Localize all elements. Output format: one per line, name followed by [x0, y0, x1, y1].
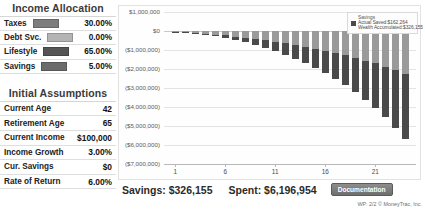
income-allocation-panel: Income Allocation Taxes30.00%Debt Svc.0.… [0, 0, 116, 74]
summary-bar: Savings: $326,155 Spent: $6,196,954 Docu… [118, 181, 421, 198]
chart-x-tick [325, 164, 326, 167]
table-row [262, 12, 269, 164]
table-row [402, 12, 409, 164]
bar-segment-saved [372, 63, 379, 108]
bar-segment-saved [202, 34, 209, 35]
table-row [312, 12, 319, 164]
bar-segment-saved [362, 61, 369, 100]
assumption-row: Rate of Return6.00% [0, 175, 116, 190]
legend-entry-label: Wealth Accumulated:$326,155 [358, 25, 423, 30]
assumption-row: Cur. Savings$0 [0, 160, 116, 175]
legend-entries: Actual Saved:$162,264 Wealth Accumulated… [350, 20, 415, 31]
income-allocation-value: 65.00% [84, 47, 116, 56]
assumption-value: $0 [103, 162, 116, 172]
table-row [282, 12, 289, 164]
income-allocation-row: Lifestyle65.00% [0, 45, 116, 59]
chart-x-tick-label: 21 [372, 168, 379, 175]
income-allocation-value: 5.00% [89, 62, 116, 71]
bar-segment-wealth [322, 31, 329, 51]
bar-segment-wealth [302, 31, 309, 47]
table-row [222, 12, 229, 164]
bar-segment-wealth [252, 31, 259, 39]
table-row [382, 12, 389, 164]
income-allocation-swatch [43, 47, 69, 56]
table-row [392, 12, 399, 164]
assumption-label: Income Growth [0, 148, 64, 157]
income-allocation-value: 0.00% [89, 33, 116, 42]
assumption-label: Retirement Age [0, 119, 64, 128]
bar-segment-wealth [242, 31, 249, 38]
table-row [332, 12, 339, 164]
table-row [352, 12, 359, 164]
income-allocation-row: Taxes30.00% [0, 17, 116, 31]
table-row [292, 12, 299, 164]
chart-y-tick-label: ($1,000,000) [119, 47, 160, 53]
chart-x-tick-label: 6 [223, 168, 227, 175]
bar-segment-saved [392, 70, 399, 128]
income-allocation-swatch [33, 19, 59, 28]
income-allocation-row: Savings5.00% [0, 60, 116, 74]
savings-total: Savings: $326,155 [122, 184, 212, 196]
chart-y-tick-label: ($5,000,000) [119, 123, 160, 129]
bar-segment-saved [272, 42, 279, 51]
bar-segment-saved [262, 40, 269, 48]
income-allocation-swatch [41, 62, 67, 71]
table-row [242, 12, 249, 164]
bar-segment-saved [342, 55, 349, 85]
legend-labels: Actual Saved:$162,264 Wealth Accumulated… [358, 20, 423, 31]
chart-legend: Savings Actual Saved:$162,264 Wealth Acc… [347, 12, 418, 34]
bar-segment-saved [322, 51, 329, 73]
initial-assumptions-title: Initial Assumptions [0, 85, 116, 102]
bar-segment-wealth [362, 31, 369, 61]
bar-segment-wealth [262, 31, 269, 40]
assumption-value: $100,000 [77, 133, 116, 143]
table-row [302, 12, 309, 164]
bar-segment-saved [402, 74, 409, 139]
bar-segment-wealth [292, 31, 299, 45]
table-row [202, 12, 209, 164]
assumption-label: Rate of Return [0, 177, 60, 186]
chart-y-tick-label: ($3,000,000) [119, 85, 160, 91]
table-row [372, 12, 379, 164]
bar-segment-saved [232, 37, 239, 41]
income-allocation-row: Debt Svc.0.00% [0, 31, 116, 45]
table-row [192, 12, 199, 164]
bar-segment-saved [192, 33, 199, 34]
income-allocation-rows: Taxes30.00%Debt Svc.0.00%Lifestyle65.00%… [0, 17, 116, 74]
income-allocation-label: Savings [0, 62, 35, 71]
chart-x-tick [225, 164, 226, 167]
table-row [212, 12, 219, 164]
chart-x-tick-label: 11 [272, 168, 279, 175]
left-panels-column: Income Allocation Taxes30.00%Debt Svc.0.… [0, 0, 116, 213]
bar-segment-wealth [392, 31, 399, 70]
initial-assumptions-rows: Current Age42Retirement Age65Current Inc… [0, 102, 116, 190]
documentation-button[interactable]: Documentation [331, 183, 393, 196]
bar-segment-saved [242, 38, 249, 43]
assumption-label: Current Age [0, 104, 51, 113]
chart-y-tick-label: ($7,000,000) [119, 161, 160, 167]
bar-segment-saved [312, 49, 319, 68]
assumption-value: 65 [103, 118, 116, 128]
assumption-label: Current Income [0, 133, 65, 142]
bar-segment-wealth [402, 31, 409, 74]
table-row [322, 12, 329, 164]
bar-segment-saved [282, 43, 289, 54]
income-allocation-label: Taxes [0, 19, 27, 28]
footer-copyright: WP: 2/2 © MoneyTrac, Inc. [357, 201, 422, 207]
chart-x-tick [375, 164, 376, 167]
bar-segment-wealth [382, 31, 389, 67]
bar-segment-saved [222, 35, 229, 38]
chart-y-tick-label: $0 [119, 28, 160, 34]
bar-segment-saved [252, 39, 259, 45]
chart-x-tick-label: 16 [322, 168, 329, 175]
chart-y-tick-label: ($4,000,000) [119, 104, 160, 110]
income-allocation-value: 30.00% [84, 19, 116, 28]
bar-segment-wealth [282, 31, 289, 43]
chart-x-tick [275, 164, 276, 167]
table-row [172, 12, 179, 164]
initial-assumptions-panel: Initial Assumptions Current Age42Retirem… [0, 85, 116, 190]
income-allocation-title: Income Allocation [0, 0, 116, 17]
chart-x-axis-line [164, 164, 416, 165]
table-row [182, 12, 189, 164]
chart-y-tick-label: ($2,000,000) [119, 66, 160, 72]
